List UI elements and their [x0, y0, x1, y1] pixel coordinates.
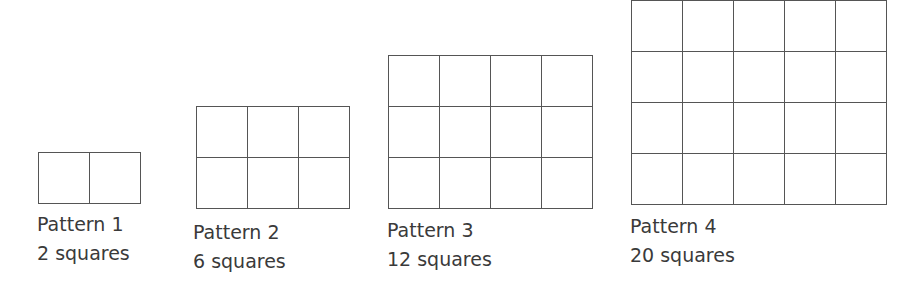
grid-square	[632, 103, 683, 154]
grid-square	[836, 103, 887, 154]
grid-square	[836, 1, 887, 52]
pattern-3-label: Pattern 3 12 squares	[387, 216, 492, 274]
grid-square	[785, 1, 836, 52]
grid-square	[734, 154, 785, 205]
grid-square	[683, 1, 734, 52]
grid-square	[734, 103, 785, 154]
grid-square	[683, 103, 734, 154]
grid-square	[440, 158, 491, 209]
pattern-2-title: Pattern 2	[193, 218, 286, 247]
grid-square	[836, 154, 887, 205]
grid-square	[683, 154, 734, 205]
grid-square	[683, 52, 734, 103]
grid-square	[197, 158, 248, 209]
grid-square	[440, 56, 491, 107]
grid-square	[491, 107, 542, 158]
grid-square	[785, 154, 836, 205]
pattern-2-label: Pattern 2 6 squares	[193, 218, 286, 276]
grid-square	[542, 158, 593, 209]
grid-square	[632, 154, 683, 205]
grid-square	[734, 1, 785, 52]
grid-square	[542, 56, 593, 107]
pattern-1-label: Pattern 1 2 squares	[37, 210, 130, 268]
grid-square	[299, 107, 350, 158]
grid-square	[389, 158, 440, 209]
grid-square	[632, 1, 683, 52]
pattern-1-grid	[38, 152, 141, 204]
pattern-4-grid	[631, 0, 887, 205]
pattern-3-count: 12 squares	[387, 245, 492, 274]
grid-square	[248, 107, 299, 158]
grid-square	[440, 107, 491, 158]
grid-square	[734, 52, 785, 103]
grid-square	[632, 52, 683, 103]
grid-square	[785, 103, 836, 154]
pattern-2-count: 6 squares	[193, 247, 286, 276]
pattern-3-grid	[388, 55, 593, 209]
pattern-2-grid	[196, 106, 350, 209]
grid-square	[248, 158, 299, 209]
grid-square	[491, 56, 542, 107]
grid-square	[197, 107, 248, 158]
pattern-1-count: 2 squares	[37, 239, 130, 268]
grid-square	[542, 107, 593, 158]
grid-square	[785, 52, 836, 103]
grid-square	[299, 158, 350, 209]
grid-square	[39, 153, 90, 204]
pattern-4-title: Pattern 4	[630, 212, 735, 241]
pattern-4-label: Pattern 4 20 squares	[630, 212, 735, 270]
grid-square	[491, 158, 542, 209]
pattern-1-title: Pattern 1	[37, 210, 130, 239]
grid-square	[389, 56, 440, 107]
grid-square	[90, 153, 141, 204]
pattern-4-count: 20 squares	[630, 241, 735, 270]
pattern-3-title: Pattern 3	[387, 216, 492, 245]
grid-square	[836, 52, 887, 103]
grid-square	[389, 107, 440, 158]
